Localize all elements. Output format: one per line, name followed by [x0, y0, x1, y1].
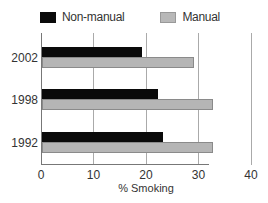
y-tick-label: 1998 [11, 93, 38, 107]
chart-legend: Non-manual Manual [40, 10, 242, 24]
legend-swatch-manual [160, 12, 176, 23]
bar-manual-1992 [42, 142, 213, 153]
legend-label: Manual [182, 10, 220, 24]
y-tick-label: 1992 [11, 136, 38, 150]
bar-non-manual-1998 [42, 89, 158, 99]
x-axis-label: % Smoking [118, 182, 174, 194]
x-tick-label: 40 [244, 168, 257, 182]
bar-manual-2002 [42, 57, 194, 68]
x-axis [41, 164, 209, 165]
plot-area [41, 33, 251, 165]
bar-non-manual-1992 [42, 132, 163, 142]
x-tick-label: 20 [139, 168, 152, 182]
bar-non-manual-2002 [42, 47, 142, 57]
legend-item-manual: Manual [160, 10, 220, 24]
legend-label: Non-manual [62, 10, 124, 24]
bar-manual-1998 [42, 99, 213, 110]
gridline [251, 33, 252, 165]
x-tick-label: 10 [87, 168, 100, 182]
legend-item-non-manual: Non-manual [40, 10, 124, 24]
legend-swatch-non-manual [40, 12, 56, 23]
y-tick-label: 2002 [11, 51, 38, 65]
x-tick-label: 30 [192, 168, 205, 182]
x-tick-label: 0 [38, 168, 45, 182]
